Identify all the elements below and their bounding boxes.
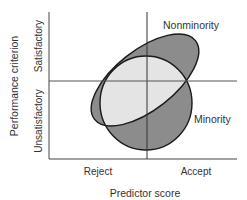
- y-axis-title: Performance criterion: [8, 36, 20, 137]
- y-category-unsatisfactory: Unsatisfactory: [33, 89, 44, 152]
- x-category-accept: Accept: [181, 166, 212, 177]
- x-category-reject: Reject: [84, 166, 113, 177]
- adverse-impact-diagram: Nonminority Minority Reject Accept Predi…: [0, 0, 247, 200]
- y-category-satisfactory: Satisfactory: [33, 20, 44, 72]
- x-axis-title: Predictor score: [110, 187, 181, 199]
- group-label-nonminority: Nonminority: [163, 19, 220, 31]
- group-label-minority: Minority: [194, 113, 232, 125]
